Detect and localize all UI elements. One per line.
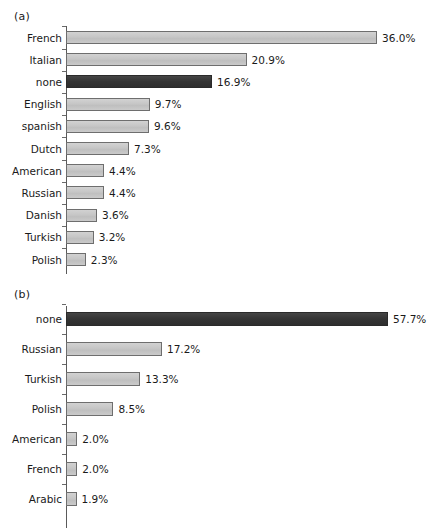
bar — [66, 209, 97, 222]
plot-area-b: none57.7%Russian17.2%Turkish13.3%Polish8… — [0, 306, 436, 532]
axis-tick — [62, 248, 66, 249]
bar — [66, 462, 77, 476]
bar — [66, 342, 162, 356]
axis-tick — [62, 394, 66, 395]
bar-value-label: 7.3% — [134, 144, 161, 155]
axis-tick — [62, 304, 66, 305]
bar-value-label: 2.0% — [82, 464, 109, 475]
bar — [66, 231, 94, 244]
bar-value-label: 3.6% — [102, 210, 129, 221]
bar-value-label: 9.6% — [154, 121, 181, 132]
bar — [66, 31, 377, 44]
category-label: Polish — [0, 255, 62, 266]
category-label: Turkish — [0, 232, 62, 243]
axis-tick — [62, 49, 66, 50]
chart-panel-b: (b) none57.7%Russian17.2%Turkish13.3%Pol… — [0, 282, 436, 532]
category-label: none — [0, 77, 62, 88]
panel-b-label: (b) — [14, 288, 30, 301]
category-label: Polish — [0, 404, 62, 415]
category-label: French — [0, 464, 62, 475]
category-label: American — [0, 434, 62, 445]
bar-value-label: 4.4% — [109, 188, 136, 199]
category-label: spanish — [0, 121, 62, 132]
bar — [66, 53, 247, 66]
bar — [66, 142, 129, 155]
bar-value-label: 1.9% — [82, 494, 109, 505]
bar-value-label: 3.2% — [99, 232, 126, 243]
axis-tick — [62, 115, 66, 116]
chart-panel-a: (a) French36.0%Italian20.9%none16.9%Engl… — [0, 0, 436, 282]
bar — [66, 492, 77, 506]
bar — [66, 164, 104, 177]
axis-tick — [62, 182, 66, 183]
axis-tick — [62, 160, 66, 161]
bar-value-label: 4.4% — [109, 166, 136, 177]
bar-value-label: 9.7% — [155, 99, 182, 110]
bar — [66, 186, 104, 199]
bar-value-label: 8.5% — [118, 404, 145, 415]
plot-area-a: French36.0%Italian20.9%none16.9%English9… — [0, 26, 436, 276]
category-label: Russian — [0, 188, 62, 199]
bar — [66, 75, 212, 88]
category-label: English — [0, 99, 62, 110]
category-label: Turkish — [0, 374, 62, 385]
category-label: Dutch — [0, 144, 62, 155]
bar — [66, 402, 113, 416]
axis-tick — [62, 93, 66, 94]
bar-value-label: 16.9% — [217, 77, 250, 88]
bar-value-label: 2.0% — [82, 434, 109, 445]
axis-tick — [62, 26, 66, 27]
category-label: Danish — [0, 210, 62, 221]
bar-value-label: 17.2% — [167, 344, 200, 355]
bar-value-label: 2.3% — [91, 255, 118, 266]
category-label: Russian — [0, 344, 62, 355]
panel-a-label: (a) — [14, 10, 30, 23]
bar — [66, 98, 150, 111]
bar-value-label: 57.7% — [393, 314, 426, 325]
category-label: Italian — [0, 55, 62, 66]
bar-value-label: 13.3% — [145, 374, 178, 385]
axis-tick — [62, 484, 66, 485]
category-label: American — [0, 166, 62, 177]
bar — [66, 372, 140, 386]
bar — [66, 432, 77, 446]
axis-tick — [62, 204, 66, 205]
bar — [66, 253, 86, 266]
bar-value-label: 36.0% — [382, 33, 415, 44]
axis-tick — [62, 71, 66, 72]
axis-tick — [62, 454, 66, 455]
axis-tick — [62, 334, 66, 335]
bar-value-label: 20.9% — [252, 55, 285, 66]
category-label: French — [0, 33, 62, 44]
axis-tick — [62, 137, 66, 138]
bar — [66, 312, 388, 326]
bar — [66, 120, 149, 133]
category-label: Arabic — [0, 494, 62, 505]
category-label: none — [0, 314, 62, 325]
axis-tick — [62, 424, 66, 425]
axis-tick — [62, 364, 66, 365]
axis-tick — [62, 226, 66, 227]
